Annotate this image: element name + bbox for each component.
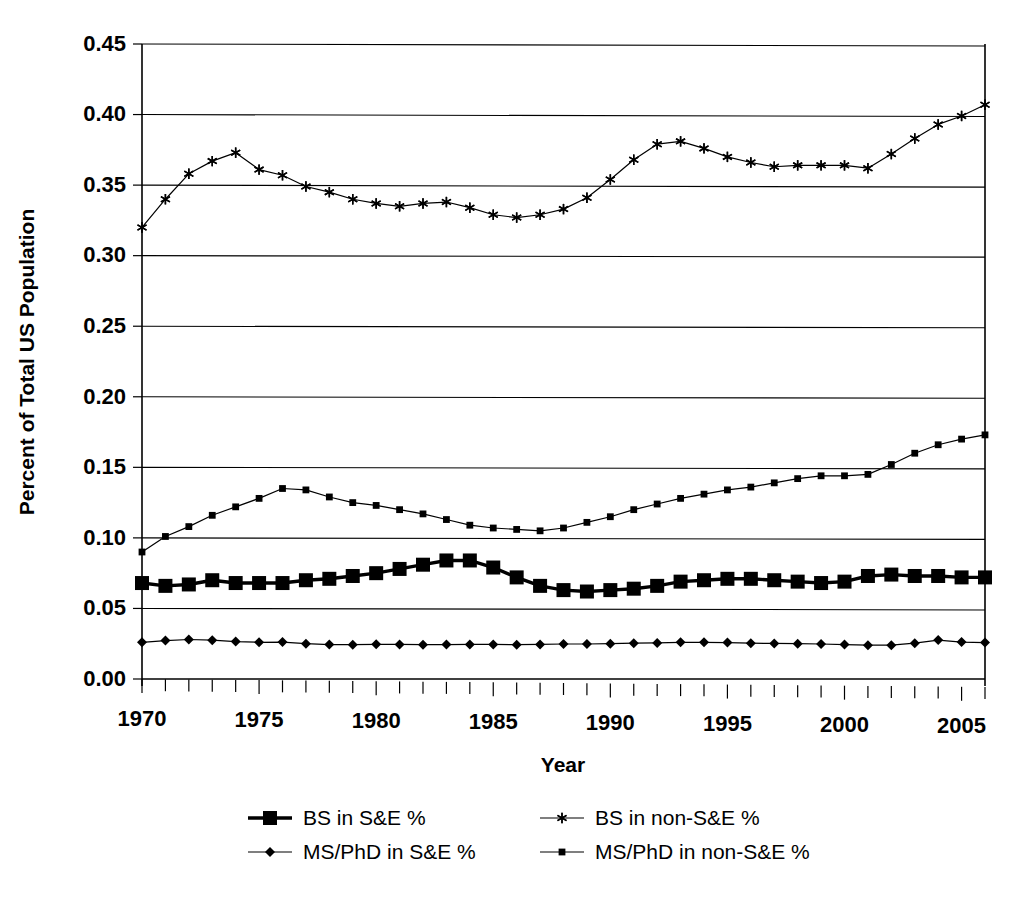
data-point-marker [559,849,566,856]
data-point-marker [205,573,219,587]
data-point-marker [346,569,360,583]
data-point-marker [443,516,450,523]
data-point-marker [818,472,825,479]
x-tick-label: 1990 [586,710,635,735]
data-point-marker [884,568,898,582]
data-point-marker [697,573,711,587]
x-tick-label: 1980 [352,708,401,733]
y-tick-label: 0.10 [83,525,126,550]
data-point-marker [396,506,403,513]
data-point-marker [931,569,945,583]
x-tick-label: 1975 [235,707,284,732]
data-point-marker [982,431,989,438]
y-tick-label: 0.15 [83,454,126,479]
data-point-marker [513,526,520,533]
y-tick-label: 0.05 [83,595,126,620]
data-point-marker [510,570,524,584]
data-point-marker [229,576,243,590]
y-tick-label: 0.30 [83,242,126,267]
y-tick-label: 0.35 [83,172,126,197]
data-point-marker [533,579,547,593]
x-tick-label: 1970 [118,706,167,731]
legend-item[interactable]: BS in S&E % [248,806,426,829]
data-point-marker [791,575,805,589]
y-axis-tick-labels: 0.000.050.100.150.200.250.300.350.400.45 [83,31,126,691]
data-point-marker [744,572,758,586]
x-axis-tick-labels: 19701975198019851990199520002005 [118,706,987,738]
legend-item[interactable]: BS in non-S&E % [540,806,760,829]
data-point-marker [232,503,239,510]
data-point-marker [580,585,594,599]
data-point-marker [747,484,754,491]
data-point-marker [276,576,290,590]
data-point-marker [724,487,731,494]
data-point-marker [861,569,875,583]
data-point-marker [299,573,313,587]
data-point-marker [463,553,477,567]
data-point-marker [158,579,172,593]
data-point-marker [557,583,571,597]
data-point-marker [654,501,661,508]
data-point-marker [841,472,848,479]
data-point-marker [888,461,895,468]
x-tick-label: 1995 [703,711,752,736]
data-point-marker [393,562,407,576]
data-point-marker [182,577,196,591]
data-point-marker [771,479,778,486]
data-point-marker [439,553,453,567]
y-tick-label: 0.45 [83,31,126,56]
data-point-marker [630,506,637,513]
data-point-marker [603,583,617,597]
y-tick-label: 0.25 [83,313,126,338]
data-point-marker [486,561,500,575]
x-tick-label: 2000 [820,712,869,737]
legend-item[interactable]: MS/PhD in non-S&E % [540,840,810,863]
x-axis-ticks [142,679,985,701]
data-point-marker [369,566,383,580]
line-chart: 0.000.050.100.150.200.250.300.350.400.45… [0,0,1013,910]
x-axis-title: Year [541,753,585,776]
data-point-marker [701,491,708,498]
data-point-marker [911,450,918,457]
data-point-marker [279,485,286,492]
data-point-marker [958,436,965,443]
data-point-marker [560,525,567,532]
legend-label: MS/PhD in non-S&E % [595,840,810,863]
chart-legend: BS in S&E %BS in non-S&E %MS/PhD in S&E … [248,806,810,863]
data-point-marker [209,512,216,519]
data-point-marker [139,549,146,556]
data-point-marker [265,847,275,857]
chart-figure: 0.000.050.100.150.200.250.300.350.400.45… [0,0,1013,910]
y-axis-title: Percent of Total US Population [15,209,38,515]
data-point-marker [252,576,266,590]
data-point-marker [322,572,336,586]
data-point-marker [908,569,922,583]
data-point-marker [162,533,169,540]
data-point-marker [767,573,781,587]
data-point-marker [185,523,192,530]
data-point-marker [865,471,872,478]
legend-label: BS in non-S&E % [595,806,760,829]
data-point-marker [537,527,544,534]
legend-item[interactable]: MS/PhD in S&E % [248,840,476,863]
x-tick-label: 2005 [937,713,986,738]
data-point-marker [674,575,688,589]
data-point-marker [838,575,852,589]
data-point-marker [326,494,333,501]
data-point-marker [373,502,380,509]
data-point-marker [349,499,356,506]
data-point-marker [303,487,310,494]
data-point-marker [490,525,497,532]
data-point-marker [263,811,277,825]
data-point-marker [416,558,430,572]
y-tick-label: 0.00 [83,666,126,691]
data-point-marker [420,511,427,518]
legend-label: MS/PhD in S&E % [303,840,476,863]
y-tick-label: 0.20 [83,384,126,409]
data-point-marker [955,570,969,584]
y-tick-label: 0.40 [83,101,126,126]
legend-label: BS in S&E % [303,806,426,829]
data-point-marker [135,576,149,590]
data-point-marker [794,475,801,482]
x-tick-label: 1985 [469,709,518,734]
